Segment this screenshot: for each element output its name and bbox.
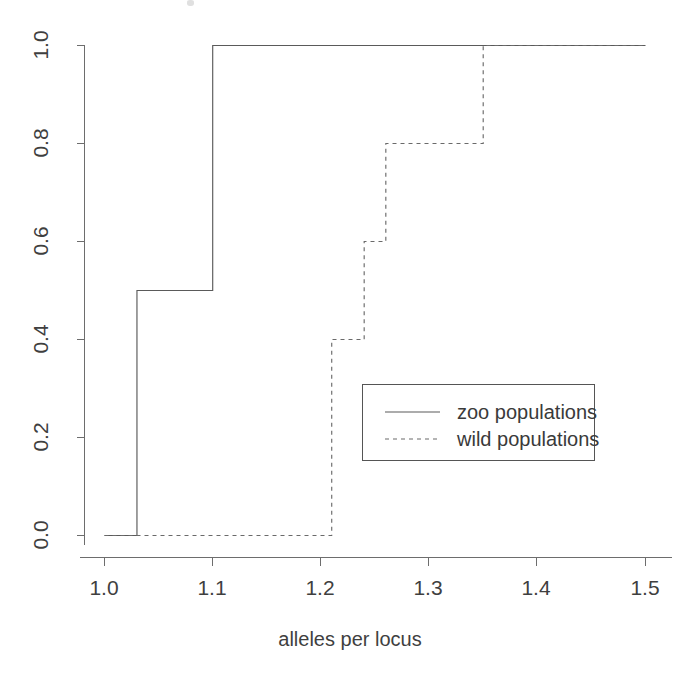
- y-tick-label-0.6: 0.6: [29, 226, 52, 255]
- y-tick-label-0.2: 0.2: [29, 422, 52, 451]
- chart-figure: 1.0 0.8 0.6 0.4 0.2 0.0 1.0 1.1 1.2 1.3 …: [0, 0, 695, 676]
- y-axis: 1.0 0.8 0.6 0.4 0.2 0.0: [29, 30, 85, 549]
- series-line-zoo-populations: [105, 46, 646, 536]
- y-tick-label-0.0: 0.0: [29, 520, 52, 549]
- x-tick-label-1.2: 1.2: [305, 576, 334, 599]
- y-tick-label-0.8: 0.8: [29, 128, 52, 157]
- x-axis: 1.0 1.1 1.2 1.3 1.4 1.5 alleles per locu…: [80, 558, 672, 651]
- x-tick-label-1.5: 1.5: [630, 576, 659, 599]
- legend: zoo populations wild populations: [363, 385, 600, 461]
- x-tick-label-1.1: 1.1: [197, 576, 226, 599]
- series-group: [105, 46, 646, 536]
- y-tick-label-1.0: 1.0: [29, 30, 52, 59]
- x-tick-label-1.0: 1.0: [89, 576, 118, 599]
- legend-label-zoo-populations: zoo populations: [457, 401, 597, 423]
- x-axis-title: alleles per locus: [278, 628, 421, 650]
- x-tick-label-1.3: 1.3: [413, 576, 442, 599]
- y-tick-label-0.4: 0.4: [29, 324, 52, 354]
- ecdf-plot: 1.0 0.8 0.6 0.4 0.2 0.0 1.0 1.1 1.2 1.3 …: [0, 0, 695, 676]
- legend-label-wild-populations: wild populations: [456, 428, 599, 450]
- x-tick-label-1.4: 1.4: [521, 576, 551, 599]
